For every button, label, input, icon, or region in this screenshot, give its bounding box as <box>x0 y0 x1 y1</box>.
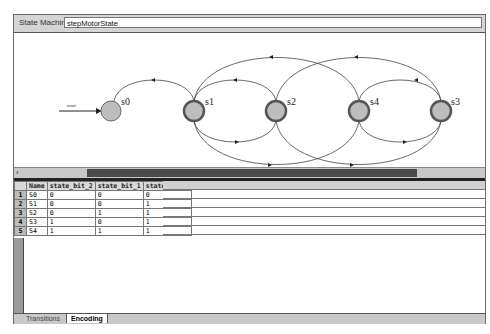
scrollbar-thumb[interactable] <box>87 169 417 177</box>
reset-transition[interactable]: reset <box>59 103 99 111</box>
cell-state-bit-2[interactable]: 0 <box>47 209 95 218</box>
cell-state-bit-1[interactable]: 1 <box>95 227 143 236</box>
scroll-left-arrow-icon[interactable]: ‹ <box>16 168 19 177</box>
cell-name[interactable]: S2 <box>27 209 48 218</box>
encoding-grid: Name state_bit_2 state_bit_1 state_bit_0… <box>14 178 485 313</box>
cell-state-bit-1[interactable]: 0 <box>95 191 143 200</box>
cell-state-bit-2[interactable]: 0 <box>47 200 95 209</box>
row-number[interactable]: 2 <box>15 200 27 209</box>
cell-name[interactable]: S3 <box>27 218 48 227</box>
cell-state-bit-1[interactable]: 0 <box>95 218 143 227</box>
cell-state-bit-1[interactable]: 0 <box>95 200 143 209</box>
svg-text:s1: s1 <box>205 96 214 107</box>
row-number[interactable]: 5 <box>15 227 27 236</box>
col-header-name[interactable]: Name <box>27 182 48 191</box>
cell-state-bit-2[interactable]: 1 <box>47 227 95 236</box>
state-machine-name-field[interactable]: stepMotorState <box>64 17 482 28</box>
tab-transitions[interactable]: Transitions <box>22 314 64 323</box>
svg-text:reset: reset <box>67 103 77 108</box>
col-header-state-bit-2[interactable]: state_bit_2 <box>47 182 95 191</box>
col-header-state-bit-1[interactable]: state_bit_1 <box>95 182 143 191</box>
cell-name[interactable]: S1 <box>27 200 48 209</box>
cell-name[interactable]: S0 <box>27 191 48 200</box>
cell-state-bit-1[interactable]: 1 <box>95 209 143 218</box>
svg-text:s4: s4 <box>370 96 379 107</box>
header-bar: State Machine: stepMotorState <box>14 15 485 33</box>
state-s0[interactable]: s0 <box>101 96 130 121</box>
horizontal-scrollbar[interactable]: ‹ <box>14 167 485 178</box>
cell-state-bit-2[interactable]: 0 <box>47 191 95 200</box>
state-machine-editor: State Machine: stepMotorState reset <box>13 14 486 324</box>
svg-text:s0: s0 <box>121 96 130 107</box>
grid-row-extension <box>163 181 485 235</box>
state-s2[interactable]: s2 <box>266 96 296 121</box>
cell-state-bit-2[interactable]: 1 <box>47 218 95 227</box>
svg-text:s3: s3 <box>451 96 460 107</box>
tab-encoding[interactable]: Encoding <box>66 314 108 323</box>
state-s4[interactable]: s4 <box>349 96 379 121</box>
row-number[interactable]: 4 <box>15 218 27 227</box>
row-number[interactable]: 1 <box>15 191 27 200</box>
svg-text:s2: s2 <box>287 96 296 107</box>
row-header-strip <box>14 238 24 313</box>
cell-name[interactable]: S4 <box>27 227 48 236</box>
row-number[interactable]: 3 <box>15 209 27 218</box>
corner-cell <box>15 182 27 191</box>
state-s3[interactable]: s3 <box>431 96 460 121</box>
state-s1[interactable]: s1 <box>184 96 214 121</box>
tab-bar: Transitions Encoding <box>14 313 485 324</box>
state-diagram-canvas[interactable]: reset <box>14 33 485 167</box>
